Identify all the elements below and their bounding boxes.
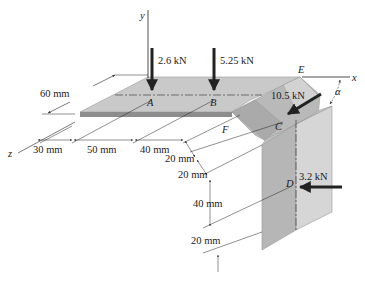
z-axis-label: z xyxy=(7,148,12,159)
point-E: E xyxy=(297,64,305,75)
dim-z: 30 mm 50 mm 40 mm xyxy=(33,140,183,155)
svg-text:20 mm: 20 mm xyxy=(191,235,220,246)
bent-bar-diagram: y x z 2.6 kN A 5.25 kN B E 10.5 kN C α 3… xyxy=(0,0,365,283)
force-label-C: 10.5 kN xyxy=(271,90,305,101)
svg-text:20 mm: 20 mm xyxy=(165,153,194,164)
svg-text:40 mm: 40 mm xyxy=(193,198,222,209)
force-label-B: 5.25 kN xyxy=(220,55,254,66)
dim-diagonal: 20 mm 20 mm xyxy=(165,141,207,180)
force-label-D: 3.2 kN xyxy=(299,171,328,182)
svg-text:20 mm: 20 mm xyxy=(178,169,207,180)
svg-text:30 mm: 30 mm xyxy=(33,144,62,155)
x-axis-label: x xyxy=(351,72,357,83)
point-C: C xyxy=(275,121,283,132)
svg-text:50 mm: 50 mm xyxy=(87,144,116,155)
point-F: F xyxy=(221,124,229,135)
y-axis-label: y xyxy=(139,10,145,21)
angle-alpha: α xyxy=(335,86,341,97)
svg-text:60 mm: 60 mm xyxy=(40,88,69,99)
point-B: B xyxy=(210,97,217,108)
force-label-A: 2.6 kN xyxy=(158,55,187,66)
